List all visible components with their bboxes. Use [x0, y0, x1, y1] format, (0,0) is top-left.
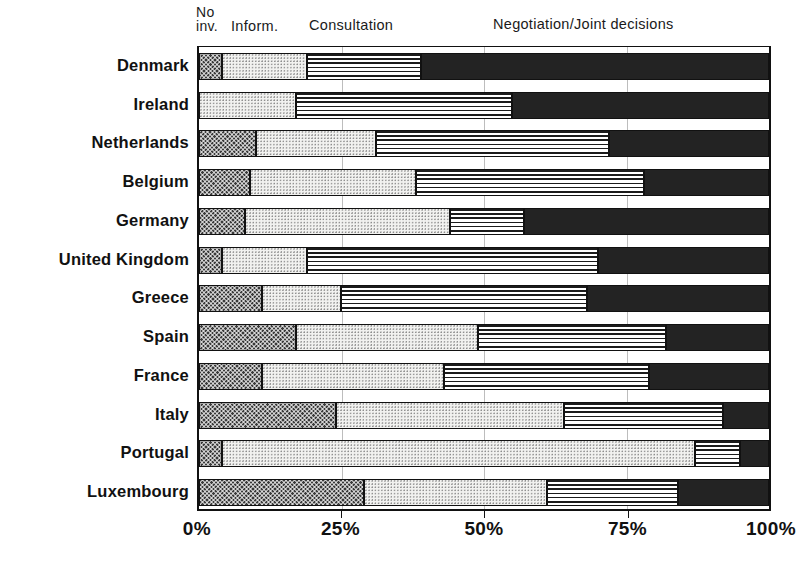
- bar-row[interactable]: [199, 92, 769, 119]
- bar-row[interactable]: [199, 53, 769, 80]
- country-label: Greece: [0, 284, 189, 311]
- bar-segment-no-involvement[interactable]: [199, 324, 296, 351]
- bar-segment-information[interactable]: [199, 92, 296, 119]
- bar-segment-negotiation[interactable]: [666, 324, 769, 351]
- x-tick-label: 100%: [746, 518, 796, 540]
- bar-segment-consultation[interactable]: [450, 208, 524, 235]
- bar-segment-information[interactable]: [245, 208, 450, 235]
- bar-segment-negotiation[interactable]: [512, 92, 769, 119]
- bar-segment-negotiation[interactable]: [421, 53, 769, 80]
- bar-rows: [199, 47, 769, 509]
- bar-segment-negotiation[interactable]: [598, 247, 769, 274]
- bar-segment-consultation[interactable]: [444, 363, 649, 390]
- bar-segment-information[interactable]: [222, 53, 308, 80]
- country-label: Germany: [0, 207, 189, 234]
- bar-segment-consultation[interactable]: [341, 285, 586, 312]
- country-label: Belgium: [0, 168, 189, 195]
- bar-segment-no-involvement[interactable]: [199, 247, 222, 274]
- bar-segment-negotiation[interactable]: [609, 130, 769, 157]
- bar-segment-no-involvement[interactable]: [199, 402, 336, 429]
- country-label: Ireland: [0, 91, 189, 118]
- country-label: Denmark: [0, 52, 189, 79]
- legend-item-information: Inform.: [231, 19, 278, 34]
- bar-segment-consultation[interactable]: [307, 53, 421, 80]
- x-tick-label: 50%: [464, 518, 503, 540]
- bar-segment-information[interactable]: [336, 402, 564, 429]
- bar-segment-no-involvement[interactable]: [199, 363, 262, 390]
- bar-segment-consultation[interactable]: [296, 92, 513, 119]
- bar-segment-no-involvement[interactable]: [199, 130, 256, 157]
- legend-item-no-involvement: No inv.: [196, 5, 218, 34]
- bar-segment-information[interactable]: [262, 285, 342, 312]
- country-label: Portugal: [0, 439, 189, 466]
- bar-segment-information[interactable]: [262, 363, 444, 390]
- bar-segment-no-involvement[interactable]: [199, 285, 262, 312]
- bar-row[interactable]: [199, 247, 769, 274]
- bar-segment-information[interactable]: [364, 479, 546, 506]
- country-label: Netherlands: [0, 129, 189, 156]
- bar-segment-information[interactable]: [222, 440, 695, 467]
- bar-segment-consultation[interactable]: [307, 247, 598, 274]
- bar-row[interactable]: [199, 130, 769, 157]
- bar-row[interactable]: [199, 479, 769, 506]
- x-tick-75: [628, 511, 629, 518]
- plot-area: [197, 46, 771, 511]
- chart-legend: No inv. Inform. Consultation Negotiation…: [197, 4, 771, 44]
- country-label: Luxembourg: [0, 478, 189, 505]
- bar-segment-negotiation[interactable]: [740, 440, 769, 467]
- legend-item-consultation: Consultation: [309, 18, 393, 33]
- bar-segment-no-involvement[interactable]: [199, 440, 222, 467]
- bar-segment-consultation[interactable]: [564, 402, 724, 429]
- stacked-bar-chart: No inv. Inform. Consultation Negotiation…: [0, 0, 802, 567]
- bar-segment-negotiation[interactable]: [723, 402, 769, 429]
- bar-segment-consultation[interactable]: [695, 440, 741, 467]
- x-tick-label: 75%: [608, 518, 647, 540]
- bar-segment-negotiation[interactable]: [678, 479, 769, 506]
- bar-segment-information[interactable]: [296, 324, 478, 351]
- bar-segment-negotiation[interactable]: [587, 285, 769, 312]
- bar-row[interactable]: [199, 285, 769, 312]
- bar-segment-consultation[interactable]: [547, 479, 678, 506]
- bar-segment-no-involvement[interactable]: [199, 53, 222, 80]
- country-axis-labels: DenmarkIrelandNetherlandsBelgiumGermanyU…: [0, 46, 189, 511]
- bar-segment-consultation[interactable]: [376, 130, 610, 157]
- bar-row[interactable]: [199, 324, 769, 351]
- bar-segment-information[interactable]: [250, 169, 415, 196]
- bar-segment-no-involvement[interactable]: [199, 208, 245, 235]
- bar-segment-information[interactable]: [222, 247, 308, 274]
- bar-segment-consultation[interactable]: [478, 324, 666, 351]
- bar-row[interactable]: [199, 208, 769, 235]
- bar-segment-no-involvement[interactable]: [199, 169, 250, 196]
- bar-segment-consultation[interactable]: [416, 169, 644, 196]
- clipped-title: [470, 0, 770, 2]
- country-label: United Kingdom: [0, 246, 189, 273]
- bar-segment-no-involvement[interactable]: [199, 479, 364, 506]
- legend-item-negotiation: Negotiation/Joint decisions: [493, 17, 674, 32]
- bar-row[interactable]: [199, 402, 769, 429]
- bar-segment-negotiation[interactable]: [644, 169, 769, 196]
- bar-segment-negotiation[interactable]: [649, 363, 769, 390]
- x-tick-25: [341, 511, 342, 518]
- bar-segment-negotiation[interactable]: [524, 208, 769, 235]
- x-tick-50: [484, 511, 485, 518]
- bar-row[interactable]: [199, 363, 769, 390]
- x-tick-label: 0%: [183, 518, 211, 540]
- country-label: Spain: [0, 323, 189, 350]
- x-axis-labels: 0%25%50%75%100%: [197, 518, 771, 548]
- x-tick-label: 25%: [321, 518, 360, 540]
- bar-row[interactable]: [199, 169, 769, 196]
- bar-row[interactable]: [199, 440, 769, 467]
- bar-segment-information[interactable]: [256, 130, 376, 157]
- country-label: France: [0, 362, 189, 389]
- country-label: Italy: [0, 401, 189, 428]
